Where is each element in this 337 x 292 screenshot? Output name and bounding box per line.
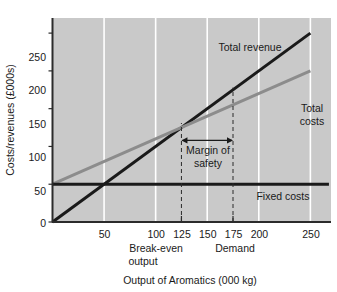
margin-of-safety-line2: safety xyxy=(194,157,223,169)
break-even-chart-figure: 250 200 150 100 50 0 50 100 125 150 175 … xyxy=(0,0,337,292)
fixed-costs-label: Fixed costs xyxy=(256,190,309,202)
total-costs-label-line1: Total xyxy=(301,102,323,114)
x-tick-label-50: 50 xyxy=(99,228,111,240)
x-axis-title: Output of Aromatics (000 kg) xyxy=(123,274,257,286)
demand-label: Demand xyxy=(215,242,255,254)
x-tick-label-250: 250 xyxy=(302,228,320,240)
y-tick-label-200: 200 xyxy=(28,84,46,96)
x-tick-label-200: 200 xyxy=(251,228,269,240)
y-tick-label-0: 0 xyxy=(40,217,46,229)
x-tick-label-100: 100 xyxy=(147,228,165,240)
y-axis-title: Costs/revenues (£000s) xyxy=(4,64,16,175)
total-revenue-label: Total revenue xyxy=(218,41,281,53)
breakeven-label-line1: Break-even xyxy=(129,242,183,254)
x-tick-label-175: 175 xyxy=(225,228,243,240)
y-tick-label-100: 100 xyxy=(28,151,46,163)
y-tick-label-250: 250 xyxy=(28,51,46,63)
x-tick-label-150: 150 xyxy=(199,228,217,240)
y-tick-label-150: 150 xyxy=(28,118,46,130)
y-tick-label-50: 50 xyxy=(34,185,46,197)
chart-canvas: 250 200 150 100 50 0 50 100 125 150 175 … xyxy=(0,0,337,292)
total-costs-label-line2: costs xyxy=(300,115,325,127)
x-tick-label-125: 125 xyxy=(173,228,191,240)
margin-of-safety-line1: Margin of xyxy=(186,144,230,156)
breakeven-label-line2: output xyxy=(128,255,157,267)
